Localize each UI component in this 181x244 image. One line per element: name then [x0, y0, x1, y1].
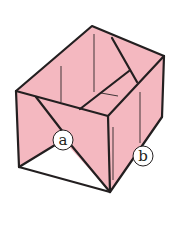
label-a: a [53, 130, 73, 150]
label-a-text: a [59, 131, 68, 149]
label-b-text: b [138, 147, 148, 165]
label-b: b [133, 146, 153, 166]
origami-box-diagram: a b [0, 0, 181, 244]
